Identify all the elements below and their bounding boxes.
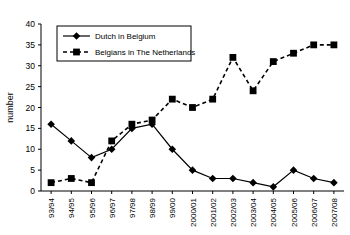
data-point-marker: [68, 175, 75, 182]
x-axis-tick-label: 94/95: [67, 197, 76, 218]
series-line: [51, 45, 334, 183]
x-axis-tick-label: 2004/05: [269, 197, 278, 226]
data-point-marker: [249, 179, 257, 187]
data-point-marker: [290, 50, 297, 57]
legend-label: Belgians in The Netherlands: [95, 48, 195, 57]
data-point-marker: [310, 41, 317, 48]
x-axis-tick-label: 2001/02: [209, 197, 218, 226]
y-axis-title: number: [5, 92, 15, 123]
y-axis-tick-label: 20: [26, 103, 36, 113]
x-axis-tick-label: 2007/08: [330, 197, 339, 226]
x-axis: 93/9494/9595/9696/9797/9898/9999/002000/…: [41, 191, 344, 227]
y-axis: 0510152025303540number: [5, 19, 41, 196]
y-axis-tick-label: 25: [26, 82, 36, 92]
x-axis-tick-label: 93/94: [47, 197, 56, 218]
data-point-marker: [250, 87, 257, 94]
x-axis-tick-label: 2006/07: [310, 197, 319, 226]
data-point-marker: [129, 121, 136, 128]
x-axis-tick-label: 2002/03: [229, 197, 238, 226]
data-point-marker: [270, 58, 277, 65]
y-axis-tick-label: 15: [26, 123, 36, 133]
data-point-marker: [108, 138, 115, 145]
data-point-marker: [209, 96, 216, 103]
x-axis-tick-label: 2005/06: [290, 197, 299, 226]
data-point-marker: [88, 179, 95, 186]
data-series: [48, 41, 338, 186]
data-point-marker: [330, 179, 338, 187]
data-point-marker: [189, 104, 196, 111]
y-axis-tick-label: 5: [30, 165, 35, 175]
data-point-marker: [229, 175, 237, 183]
data-point-marker: [230, 54, 237, 61]
chart-plot: 0510152025303540number 93/9494/9595/9696…: [0, 0, 350, 235]
legend-label: Dutch in Belgium: [95, 32, 156, 41]
x-axis-tick-label: 98/99: [148, 197, 157, 218]
data-point-marker: [310, 175, 318, 183]
y-axis-tick-label: 10: [26, 144, 36, 154]
data-point-marker: [331, 41, 338, 48]
data-point-marker: [73, 49, 80, 56]
data-series-group: [47, 41, 337, 190]
x-axis-tick-label: 99/00: [168, 197, 177, 218]
data-point-marker: [169, 96, 176, 103]
data-point-marker: [149, 117, 156, 124]
x-axis-tick-label: 2000/01: [189, 197, 198, 226]
x-axis-tick-label: 95/96: [88, 197, 97, 218]
y-axis-tick-label: 30: [26, 61, 36, 71]
y-axis-tick-label: 35: [26, 40, 36, 50]
y-axis-tick-label: 40: [26, 19, 36, 29]
x-axis-tick-label: 2003/04: [249, 197, 258, 226]
x-axis-tick-label: 97/98: [128, 197, 137, 218]
chart-legend: Dutch in BelgiumBelgians in The Netherla…: [57, 26, 195, 61]
x-axis-tick-label: 96/97: [108, 197, 117, 218]
series-line: [51, 124, 334, 187]
data-point-marker: [48, 179, 55, 186]
data-point-marker: [209, 175, 217, 183]
chart-container: 0510152025303540number 93/9494/9595/9696…: [0, 0, 350, 235]
y-axis-tick-label: 0: [30, 186, 35, 196]
